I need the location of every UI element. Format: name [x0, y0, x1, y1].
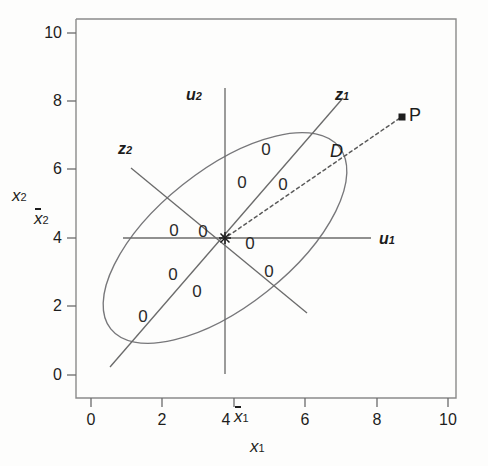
principal-axis-z1 — [110, 98, 343, 367]
y-tick-label-0: 0 — [40, 366, 62, 384]
x-axis-title: x1 — [250, 437, 265, 457]
x-mean-label: x1 — [234, 407, 249, 427]
y-tick-label-4: 4 — [40, 229, 62, 247]
x-tick-label-10: 10 — [436, 411, 460, 429]
y-axis-title-text: x — [12, 186, 21, 205]
data-point: 0 — [168, 265, 177, 284]
point-p-marker — [399, 114, 406, 121]
y-mean-label: x2 — [34, 209, 49, 229]
y-axis-title-subscript: 2 — [21, 191, 27, 203]
axis-label-z2: z2 — [118, 140, 132, 158]
axis-label-u2-text: u — [186, 86, 196, 103]
data-point: 0 — [245, 234, 254, 253]
y-mean-label-subscript: 2 — [43, 214, 49, 226]
axis-label-u2: u2 — [186, 86, 202, 104]
axis-label-u2-subscript: 2 — [196, 90, 202, 102]
x-axis-title-subscript: 1 — [259, 442, 265, 454]
y-mean-overbar — [35, 208, 41, 210]
axis-label-z1-text: z — [335, 86, 343, 103]
data-point: 0 — [169, 221, 178, 240]
axis-label-z1: z1 — [335, 86, 349, 104]
data-point: 0 — [278, 175, 287, 194]
y-axis-ticks — [67, 33, 76, 375]
statistical-scatter-figure: 0 0 0 0 0 0 0 0 0 0 10 8 6 4 2 0 x2 x2 0… — [0, 0, 488, 466]
y-mean-overbar-wrap: x — [34, 209, 43, 229]
x-axis-ticks — [91, 398, 448, 407]
y-axis-title: x2 — [12, 186, 27, 206]
mean-point-marker — [219, 232, 231, 244]
y-mean-label-text: x — [34, 209, 43, 228]
data-point: 0 — [264, 262, 273, 281]
data-point: 0 — [138, 307, 147, 326]
data-point: 0 — [237, 173, 246, 192]
data-point: 0 — [261, 140, 270, 159]
axis-label-u1-text: u — [379, 230, 389, 247]
point-label-P: P — [409, 105, 421, 126]
x-mean-label-text: x — [234, 407, 243, 426]
data-point: 0 — [192, 282, 201, 301]
figure-canvas: 0 0 0 0 0 0 0 0 0 0 — [0, 0, 488, 466]
y-tick-label-10: 10 — [40, 24, 62, 42]
x-mean-overbar — [235, 406, 241, 408]
axis-label-z2-text: z — [118, 140, 126, 157]
axis-label-u1: u1 — [379, 230, 395, 248]
data-point: 0 — [198, 222, 207, 241]
axis-label-z2-subscript: 2 — [126, 144, 132, 156]
axis-label-u1-subscript: 1 — [389, 234, 395, 246]
x-mean-overbar-wrap: x — [234, 407, 243, 427]
data-points: 0 0 0 0 0 0 0 0 0 0 — [138, 140, 287, 326]
x-tick-label-2: 2 — [152, 411, 172, 429]
x-tick-label-8: 8 — [367, 411, 387, 429]
x-tick-label-4: 4 — [216, 411, 236, 429]
y-tick-label-8: 8 — [40, 92, 62, 110]
y-tick-label-6: 6 — [40, 160, 62, 178]
x-mean-label-subscript: 1 — [243, 412, 249, 424]
y-tick-label-2: 2 — [40, 297, 62, 315]
axis-label-z1-subscript: 1 — [343, 90, 349, 102]
x-tick-label-0: 0 — [81, 411, 101, 429]
x-axis-title-text: x — [250, 437, 259, 456]
distance-line-D — [228, 118, 400, 236]
distance-label-D: D — [330, 141, 343, 162]
x-tick-label-6: 6 — [295, 411, 315, 429]
